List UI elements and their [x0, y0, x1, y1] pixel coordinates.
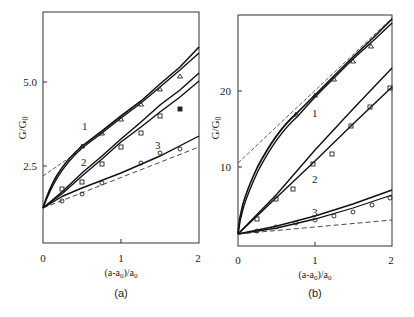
ytick-label: 10	[220, 161, 232, 173]
panel-caption-a: (a)	[114, 287, 127, 299]
curve-label-3: 3	[312, 206, 318, 218]
panel-b: 1 2 3 20 10 0 1 2 (a-a0)/a0 G/G0 (b)	[209, 15, 394, 299]
curve-3-theory	[43, 136, 199, 208]
curve-1-asymptote	[238, 18, 392, 163]
curve-1-upper	[238, 19, 392, 234]
y-axis-label-b: G/G0	[209, 117, 223, 140]
curve-label-2: 2	[312, 173, 318, 185]
plot-frame-a	[43, 12, 199, 243]
panel-caption-b: (b)	[308, 287, 321, 299]
curve-2-upper	[43, 73, 199, 208]
panel-a: 1 2 3 5.0 2.5 0 1 2 (a-a0)/a0 G/G0 (a)	[16, 12, 201, 299]
y-axis-label-a: G/G0	[16, 117, 30, 140]
xtick-label: 1	[118, 252, 124, 264]
curve-label-1: 1	[82, 120, 88, 132]
xtick-label: 2	[195, 252, 201, 264]
ytick-label: 5.0	[23, 76, 37, 88]
ytick-label: 20	[220, 85, 232, 97]
xtick-label: 2	[388, 254, 394, 266]
curve-label-2: 2	[81, 156, 87, 168]
curve-label-3: 3	[155, 139, 161, 151]
xtick-label: 0	[40, 252, 46, 264]
curve-1-upper	[43, 47, 199, 208]
curve-3-markers	[60, 147, 182, 203]
xtick-label: 0	[235, 254, 241, 266]
x-axis-label-a: (a-a0)/a0	[104, 267, 138, 280]
ytick-label: 2.5	[23, 160, 37, 172]
curve-1-lower	[43, 53, 199, 208]
curve-3-asymptote	[43, 147, 199, 208]
curve-label-1: 1	[312, 107, 318, 119]
xtick-label: 1	[312, 254, 318, 266]
curve-2-lower	[43, 81, 199, 208]
figure: 1 2 3 5.0 2.5 0 1 2 (a-a0)/a0 G/G0 (a)	[0, 0, 414, 317]
x-axis-label-b: (a-a0)/a0	[298, 269, 332, 282]
